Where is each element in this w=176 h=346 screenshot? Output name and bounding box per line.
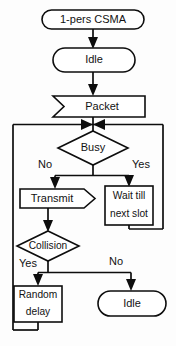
node-idle-bottom: Idle: [98, 291, 166, 316]
edge-busy-no-to-transmit: [50, 176, 60, 190]
edge-busy-yes-to-wait: [124, 175, 134, 187]
edge-label-collision-yes: Yes: [19, 257, 37, 269]
node-packet-label: Packet: [85, 100, 119, 112]
node-wait-line2-label: next slot: [110, 208, 148, 219]
node-idle-bottom-label: Idle: [123, 297, 141, 309]
edge-transmit-to-collision: [43, 208, 53, 232]
node-busy-label: Busy: [81, 141, 106, 153]
edge-label-busy-yes: Yes: [132, 158, 150, 170]
flowchart-canvas: 1-pers CSMA Idle Packet Busy No Yes Tran…: [0, 0, 176, 346]
node-start: 1-pers CSMA: [42, 10, 144, 29]
node-idle-top-label: Idle: [85, 53, 103, 65]
node-transmit-label: Transmit: [31, 192, 73, 204]
edge-start-to-idle: [88, 28, 98, 49]
edge-label-busy-no: No: [38, 158, 52, 170]
node-wait-line1-label: Wait till: [113, 190, 145, 201]
edge-busy-split: [55, 165, 129, 176]
node-random-line2-label: delay: [26, 306, 51, 317]
node-start-label: 1-pers CSMA: [60, 13, 127, 25]
node-collision-label: Collision: [29, 240, 68, 251]
node-transmit: Transmit: [20, 189, 95, 208]
edge-idle-to-packet: [88, 72, 98, 96]
node-busy: Busy: [58, 131, 128, 165]
node-idle-top: Idle: [53, 48, 135, 72]
merge-bar: [13, 119, 163, 130]
edge-collision-no-to-idle: [126, 273, 136, 292]
node-random-delay: Random delay: [14, 286, 62, 322]
node-packet: Packet: [53, 96, 145, 117]
edge-collision-yes-to-random: [33, 273, 43, 287]
node-random-line1-label: Random: [19, 289, 58, 300]
node-wait-next-slot: Wait till next slot: [105, 186, 153, 225]
edge-label-collision-no: No: [109, 255, 123, 267]
